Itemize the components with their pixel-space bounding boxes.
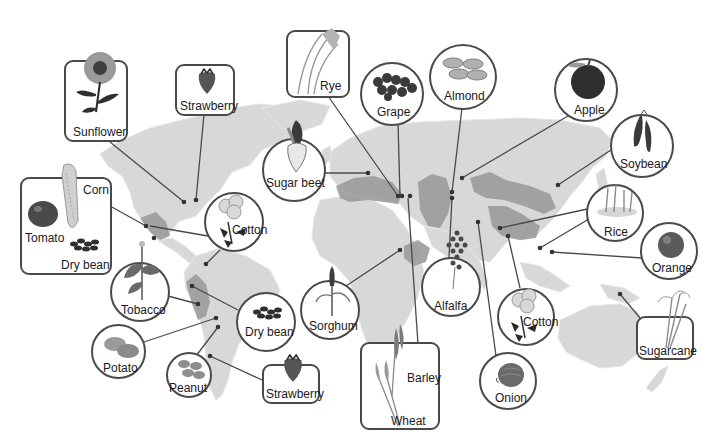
new-zealand bbox=[646, 366, 668, 392]
alfalfa-icon bbox=[439, 227, 473, 291]
dry-bean-label: Dry bean bbox=[61, 259, 110, 271]
sunflower-icon bbox=[66, 48, 130, 118]
wheat-label: Wheat bbox=[391, 415, 426, 427]
callout-label: Onion bbox=[495, 392, 527, 404]
callout-label: Strawberry bbox=[180, 100, 238, 112]
callout-label: Dry bean bbox=[245, 326, 294, 338]
callout-onion: Onion bbox=[479, 352, 537, 410]
strawberry-icon bbox=[195, 68, 219, 96]
callout-potato: Potato bbox=[91, 324, 146, 379]
corn-icon bbox=[58, 161, 82, 235]
callout-orange: Orange bbox=[640, 222, 698, 280]
tomato-label: Tomato bbox=[25, 232, 64, 244]
callout-apple: Apple bbox=[554, 58, 618, 122]
leader-cotton-as bbox=[508, 236, 520, 288]
callout-label: Peanut bbox=[169, 382, 207, 394]
callout-cotton-americas: Cotton bbox=[204, 192, 264, 252]
rice-icon bbox=[594, 182, 640, 218]
peanut-icon bbox=[174, 358, 208, 380]
callout-sugar-beet: Sugar beet bbox=[262, 138, 326, 202]
strawberry-icon bbox=[280, 354, 306, 384]
callout-sugarcane: Sugarcane bbox=[636, 316, 694, 360]
dry-bean-icon bbox=[251, 304, 285, 322]
callout-almond: Almond bbox=[429, 44, 497, 110]
callout-label: Apple bbox=[574, 104, 605, 116]
callout-label: Orange bbox=[652, 262, 692, 274]
callout-rye: Rye bbox=[286, 30, 350, 98]
barley-wheat-icon bbox=[368, 316, 412, 430]
callout-rice: Rice bbox=[586, 184, 644, 242]
corn-label: Corn bbox=[83, 184, 109, 196]
almond-icon bbox=[437, 54, 493, 84]
callout-dry-bean-south-america: Dry bean bbox=[236, 292, 296, 352]
leader-orange bbox=[552, 252, 642, 258]
potato-icon bbox=[101, 334, 141, 360]
callout-label: Sunflower bbox=[73, 126, 126, 138]
cotton-icon bbox=[210, 192, 262, 252]
callout-label: Sorghum bbox=[309, 320, 358, 332]
orange-icon bbox=[656, 230, 686, 260]
callout-label: Potato bbox=[103, 362, 138, 374]
callout-label: Soybean bbox=[620, 158, 667, 170]
callout-label: Sugarcane bbox=[639, 345, 697, 357]
onion-icon bbox=[493, 360, 527, 390]
callout-grape: Grape bbox=[360, 62, 424, 126]
callout-label: Strawberry bbox=[266, 388, 324, 400]
callout-cotton-asia: Cotton bbox=[497, 288, 555, 346]
crop-origin-map-figure: Sunflower Strawberry Rye Grape bbox=[0, 0, 716, 447]
callout-soybean: Soybean bbox=[610, 114, 674, 178]
callout-label: Rice bbox=[604, 226, 628, 238]
grape-icon bbox=[368, 68, 420, 102]
callout-label: Cotton bbox=[523, 316, 558, 328]
callout-barley-wheat: Barley Wheat bbox=[360, 342, 440, 430]
sugarcane-icon bbox=[652, 288, 692, 350]
dry-bean-icon bbox=[68, 236, 102, 254]
callout-alfalfa: Alfalfa bbox=[421, 257, 481, 317]
callout-label: Tobacco bbox=[121, 304, 166, 316]
callout-mesoamerica: Corn Tomato Dry bean bbox=[20, 177, 112, 275]
apple-icon bbox=[566, 60, 610, 102]
callout-strawberry-south-america: Strawberry bbox=[262, 364, 320, 404]
callout-sunflower: Sunflower bbox=[64, 60, 128, 142]
tobacco-icon bbox=[120, 238, 164, 304]
australia bbox=[558, 304, 646, 368]
soybean-icon bbox=[626, 110, 662, 154]
callout-peanut: Peanut bbox=[166, 352, 212, 398]
callout-tobacco: Tobacco bbox=[110, 262, 170, 322]
callout-label: Grape bbox=[377, 106, 410, 118]
callout-label: Almond bbox=[444, 90, 485, 102]
callout-sorghum: Sorghum bbox=[300, 280, 360, 340]
sugar-beet-icon bbox=[282, 118, 312, 174]
callout-label: Sugar beet bbox=[266, 177, 325, 189]
barley-label: Barley bbox=[407, 372, 441, 384]
sorghum-icon bbox=[312, 262, 352, 318]
callout-label: Alfalfa bbox=[434, 300, 467, 312]
tomato-icon bbox=[26, 199, 60, 229]
callout-label: Cotton bbox=[232, 224, 267, 236]
callout-label: Rye bbox=[320, 80, 341, 92]
callout-strawberry-north-america: Strawberry bbox=[175, 64, 235, 116]
